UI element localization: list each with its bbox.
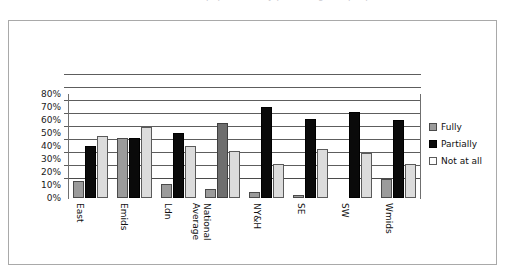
bar	[185, 146, 196, 198]
bar	[117, 138, 128, 198]
bar	[229, 151, 240, 198]
x-axis-label: NY&H	[245, 201, 289, 263]
bar	[161, 184, 172, 198]
x-axis-label: NationalAverage	[200, 201, 244, 263]
x-axis-label: Wmids	[377, 201, 421, 263]
x-axis-label-line1: NY&H	[252, 203, 262, 229]
legend-item-label: Fully	[441, 123, 462, 132]
bar	[393, 120, 404, 198]
x-axis-label: East	[68, 201, 112, 263]
bar	[361, 153, 372, 198]
legend-item-label: Partially	[441, 140, 477, 149]
bar	[205, 189, 216, 198]
x-axis-labels: EastEmidsLdnNationalAverageNY&HSESWWmids	[68, 201, 421, 263]
y-axis-tick-label: 0%	[9, 194, 61, 203]
x-axis-label-line2: Average	[190, 203, 201, 241]
chart-screenshot: population, by percentage, of people. 80…	[0, 0, 507, 273]
legend-item: Fully	[429, 122, 501, 132]
x-axis-label-line1: East	[75, 203, 85, 222]
x-axis-label: Emids	[112, 201, 156, 263]
gridline	[68, 87, 421, 88]
y-axis-tick-label: 80%	[9, 90, 61, 99]
y-axis-tick-label: 50%	[9, 129, 61, 138]
bar	[273, 164, 284, 198]
bar	[349, 112, 360, 198]
x-axis-label-line1: SE	[296, 203, 306, 214]
bar	[305, 119, 316, 198]
y-axis-tick-label: 60%	[9, 116, 61, 125]
x-axis-label-line1: National	[202, 203, 212, 241]
y-axis-tick-label: 70%	[9, 103, 61, 112]
bar	[85, 146, 96, 198]
cut-off-caption-text: population, by percentage, of people.	[206, 0, 383, 1]
cut-off-caption-top: population, by percentage, of people.	[0, 0, 507, 13]
x-axis-label-line1: SW	[340, 203, 350, 218]
bar-group	[156, 94, 200, 198]
bar-group	[68, 94, 112, 198]
bar	[97, 136, 108, 198]
chart-frame: 80%70%60%50%40%30%20%10%0% EastEmidsLdnN…	[8, 20, 497, 265]
legend-item-label: Not at all	[441, 157, 482, 166]
square-swatch-gray	[429, 123, 437, 131]
bar-group	[112, 94, 156, 198]
bar-groups	[68, 94, 421, 198]
x-axis-label-line1: Emids	[119, 203, 129, 230]
bar-group	[377, 94, 421, 198]
bar-group	[200, 94, 244, 198]
bar	[173, 133, 184, 198]
y-axis-tick	[64, 74, 68, 75]
bar	[141, 127, 152, 199]
gridline	[68, 74, 421, 75]
y-axis-tick-label: 10%	[9, 181, 61, 190]
bar	[293, 195, 304, 198]
y-axis-labels: 80%70%60%50%40%30%20%10%0%	[9, 94, 61, 199]
square-swatch-black	[429, 140, 437, 148]
x-axis-label-line1: Wmids	[384, 203, 394, 234]
chart-legend: FullyPartiallyNot at all	[429, 122, 501, 173]
bar-group	[289, 94, 333, 198]
bar-group	[245, 94, 289, 198]
bar	[73, 181, 84, 198]
bar	[405, 164, 416, 198]
bar	[381, 179, 392, 198]
x-axis-label-line1: Ldn	[163, 203, 173, 219]
y-axis-tick-label: 30%	[9, 155, 61, 164]
legend-item: Partially	[429, 139, 501, 149]
bar-group	[333, 94, 377, 198]
bar	[249, 192, 260, 198]
x-axis-label: SE	[289, 201, 333, 263]
bar	[261, 107, 272, 198]
y-axis-tick-label: 40%	[9, 142, 61, 151]
bar	[317, 149, 328, 198]
square-swatch-white	[429, 157, 437, 165]
bar	[129, 138, 140, 198]
bar	[217, 123, 228, 198]
y-axis-tick	[64, 87, 68, 88]
x-axis-label: SW	[333, 201, 377, 263]
y-axis-tick-label: 20%	[9, 168, 61, 177]
legend-item: Not at all	[429, 156, 501, 166]
